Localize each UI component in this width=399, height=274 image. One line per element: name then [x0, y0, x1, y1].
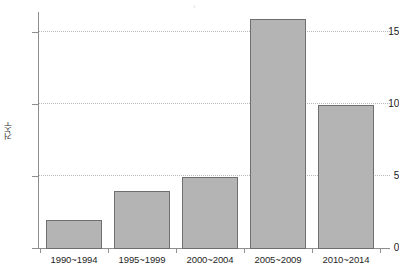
x-tick-mark [108, 248, 109, 253]
x-axis-label-2005-2009: 2005~2009 [244, 254, 312, 265]
x-tick-mark [244, 248, 245, 253]
y-axis-title: 건수 [4, 122, 13, 140]
x-tick-mark [40, 248, 41, 253]
bar-slot [40, 10, 108, 249]
bar-1995-1999[interactable] [114, 191, 170, 249]
bar-2000-2004[interactable] [182, 177, 238, 249]
x-axis-label-2000-2004: 2000~2004 [176, 254, 244, 265]
bar-1990-1994[interactable] [46, 220, 102, 249]
bar-slot [108, 10, 176, 249]
bar-slot [312, 10, 380, 249]
scan-artifact [193, 5, 196, 8]
bar-chart: 건수 15 10 5 0 1990~1994 1995 [0, 0, 399, 274]
bars-container [38, 10, 390, 249]
x-tick-mark [176, 248, 177, 253]
x-tick-mark [312, 248, 313, 253]
bar-2005-2009[interactable] [250, 19, 306, 249]
bar-slot [176, 10, 244, 249]
bar-2010-2014[interactable] [318, 105, 374, 249]
bar-slot [244, 10, 312, 249]
x-axis-label-2010-2014: 2010~2014 [312, 254, 380, 265]
x-axis-label-1995-1999: 1995~1999 [108, 254, 176, 265]
x-axis-label-1990-1994: 1990~1994 [40, 254, 108, 265]
x-tick-mark [380, 248, 381, 253]
